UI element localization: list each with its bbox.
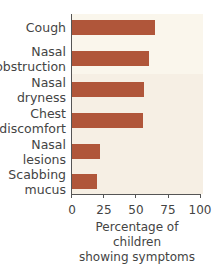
- category-label-nasal-dryness: Nasal dryness: [17, 76, 66, 105]
- x-axis-line: [71, 194, 201, 195]
- label-line: Chest: [0, 107, 66, 122]
- x-tick-100: [200, 194, 201, 198]
- label-line: Scabbing: [8, 168, 66, 183]
- x-tick-25: [103, 194, 104, 198]
- label-line: obstruction: [0, 60, 66, 75]
- label-line: Nasal: [0, 45, 66, 60]
- x-axis-title-line: Percentage of children: [72, 220, 202, 250]
- label-line: Cough: [26, 21, 66, 36]
- category-label-nasal-obstruction: Nasal obstruction: [0, 45, 66, 74]
- bar-nasal-lesions: [72, 144, 100, 159]
- label-line: lesions: [23, 153, 66, 168]
- bar-nasal-obstruction: [72, 51, 149, 66]
- y-axis-line: [71, 14, 72, 195]
- x-tick-75: [168, 194, 169, 198]
- label-line: dryness: [17, 91, 66, 106]
- x-tick-label-100: 100: [180, 203, 220, 217]
- x-axis-title-line: showing symptoms: [72, 250, 202, 265]
- category-label-nasal-lesions: Nasal lesions: [23, 138, 66, 167]
- x-tick-0: [71, 194, 72, 198]
- label-line: mucus: [8, 183, 66, 198]
- category-label-scabbing-mucus: Scabbing mucus: [8, 168, 66, 197]
- category-label-cough: Cough: [26, 21, 66, 36]
- label-line: Nasal: [17, 76, 66, 91]
- bar-chest-discomfort: [72, 113, 143, 128]
- x-axis-title: Percentage of children showing symptoms: [72, 220, 202, 265]
- label-line: Nasal: [23, 138, 66, 153]
- bar-nasal-dryness: [72, 82, 144, 97]
- category-label-chest-discomfort: Chest discomfort: [0, 107, 66, 136]
- bar-cough: [72, 20, 155, 35]
- x-tick-50: [135, 194, 136, 198]
- bar-scabbing-mucus: [72, 174, 97, 189]
- label-line: discomfort: [0, 122, 66, 137]
